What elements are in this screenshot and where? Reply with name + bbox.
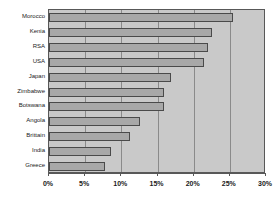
bar (49, 88, 164, 97)
bar-row (49, 28, 266, 37)
bar (49, 58, 204, 67)
bar (49, 43, 208, 52)
bar (49, 102, 164, 111)
x-axis-tick-mark (84, 173, 85, 176)
x-axis-tick-label: 5% (64, 179, 104, 188)
bar-row (49, 88, 266, 97)
bar-row (49, 162, 266, 171)
category-label: Kenia (0, 28, 45, 35)
category-axis-labels: MoroccoKeniaRSAUSAJapanZimbabweBotswanaA… (0, 9, 45, 173)
bar (49, 13, 233, 22)
bar-row (49, 117, 266, 126)
category-label: India (0, 147, 45, 154)
x-axis-tick-label: 10% (100, 179, 140, 188)
bar (49, 28, 212, 37)
bar-row (49, 13, 266, 22)
category-label: Brittain (0, 132, 45, 139)
category-label: RSA (0, 43, 45, 50)
x-axis-tick-mark (120, 173, 121, 176)
bar (49, 132, 130, 141)
category-label: Angola (0, 117, 45, 124)
category-label: Greece (0, 162, 45, 169)
category-label: USA (0, 58, 45, 65)
x-axis-tick-mark (265, 173, 266, 176)
category-label: Botswana (0, 102, 45, 109)
bar (49, 117, 140, 126)
x-axis-tick-label: 25% (209, 179, 249, 188)
bars-layer (49, 10, 264, 172)
x-axis-tick-label: 0% (28, 179, 68, 188)
bar-row (49, 73, 266, 82)
category-label: Zimbabwe (0, 88, 45, 95)
x-axis-tick-mark (229, 173, 230, 176)
x-axis-tick-label: 15% (137, 179, 177, 188)
bar (49, 147, 111, 156)
bar (49, 162, 105, 171)
category-label: Morocco (0, 13, 45, 20)
plot-area (48, 9, 265, 173)
bar-row (49, 102, 266, 111)
bar-row (49, 58, 266, 67)
x-axis-tick-mark (157, 173, 158, 176)
bar-row (49, 43, 266, 52)
x-axis-tick-label: 20% (173, 179, 213, 188)
bar-row (49, 147, 266, 156)
x-axis-tick-mark (48, 173, 49, 176)
x-axis-tick-label: 30% (245, 179, 280, 188)
bar-row (49, 132, 266, 141)
x-axis-tick-mark (193, 173, 194, 176)
category-label: Japan (0, 73, 45, 80)
bar-chart: MoroccoKeniaRSAUSAJapanZimbabweBotswanaA… (0, 0, 280, 199)
bar (49, 73, 171, 82)
